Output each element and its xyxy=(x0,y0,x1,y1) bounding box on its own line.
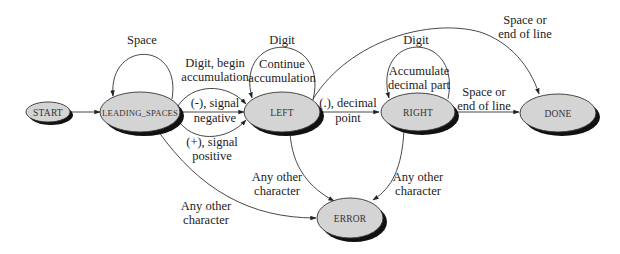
label-right-done-line2: end of line xyxy=(457,99,511,113)
label-ls-digit-line1: Digit, begin xyxy=(185,56,245,70)
edge-labels: Space Digit, begin accumulation (-), sig… xyxy=(127,13,552,227)
label-ls-minus-line1: (-), signal xyxy=(191,96,240,110)
label-right-digit: Digit xyxy=(403,33,429,47)
node-right: RIGHT xyxy=(381,93,459,135)
node-label-done: DONE xyxy=(544,109,571,119)
label-right-error-line2: character xyxy=(395,184,442,198)
label-left-inner-line1: Continue xyxy=(259,57,305,71)
node-left: LEFT xyxy=(244,92,324,136)
node-label-error: ERROR xyxy=(334,214,367,224)
label-ls-minus-line2: negative xyxy=(194,111,237,125)
label-right-error-line1: Any other xyxy=(393,170,444,184)
label-left-done-line2: end of line xyxy=(498,27,552,41)
label-ls-space: Space xyxy=(127,33,157,47)
label-left-inner-line2: accumulation xyxy=(248,71,316,85)
label-ls-error-line1: Any other xyxy=(181,199,232,213)
node-start: START xyxy=(26,102,73,125)
label-ls-error-line2: character xyxy=(183,213,230,227)
label-right-inner-line1: Accumulate xyxy=(389,64,450,78)
state-diagram: START LEADING_SPACES LEFT RIGHT DONE ERR… xyxy=(0,0,620,254)
label-right-inner-line2: decimal part xyxy=(388,78,451,92)
label-left-error-line1: Any other xyxy=(252,170,303,184)
label-left-right-line1: (.), decimal xyxy=(319,96,377,110)
label-left-right-line2: point xyxy=(335,111,361,125)
node-done: DONE xyxy=(520,94,600,136)
node-label-left: LEFT xyxy=(270,108,294,118)
label-right-done-line1: Space or xyxy=(462,85,506,99)
node-label-right: RIGHT xyxy=(403,108,433,118)
label-ls-digit-line2: accumulation xyxy=(181,70,249,84)
node-label-leading-spaces: LEADING_SPACES xyxy=(102,108,178,118)
node-error: ERROR xyxy=(317,198,387,242)
label-left-done-line1: Space or xyxy=(503,13,547,27)
node-leading-spaces: LEADING_SPACES xyxy=(100,92,184,136)
label-left-digit: Digit xyxy=(269,33,295,47)
label-ls-plus-line1: (+), signal xyxy=(186,135,238,149)
node-label-start: START xyxy=(33,108,63,118)
label-ls-plus-line2: positive xyxy=(192,149,232,163)
label-left-error-line2: character xyxy=(254,184,301,198)
